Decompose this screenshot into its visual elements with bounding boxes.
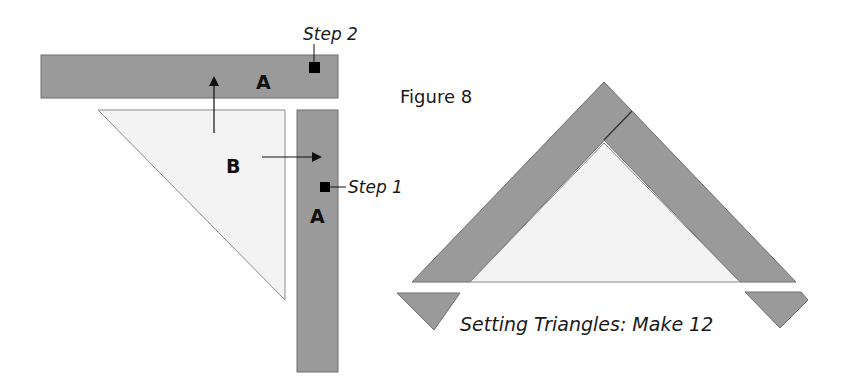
finished-setting-triangle [412, 82, 796, 282]
step2-label: Step 2 [303, 24, 358, 44]
left-trim-triangle [397, 293, 460, 330]
triangle-b-label: B [226, 155, 240, 177]
figure-8-diagram: A B A Step 2 Step 1 Figure 8 Setting Tri… [0, 0, 863, 391]
step1-marker-icon [320, 182, 330, 192]
top-strip-label: A [256, 71, 271, 93]
assembly-diagram: A B A Step 2 Step 1 [41, 24, 403, 372]
step1-label: Step 1 [348, 177, 403, 197]
right-trim-triangle [745, 292, 808, 328]
top-strip-a [41, 55, 338, 98]
step2-marker-icon [309, 62, 320, 73]
triangle-b [98, 110, 285, 300]
figure-title: Figure 8 [400, 86, 472, 107]
side-strip-a [297, 110, 338, 372]
figure-caption: Setting Triangles: Make 12 [460, 313, 713, 335]
side-strip-label: A [310, 205, 325, 227]
